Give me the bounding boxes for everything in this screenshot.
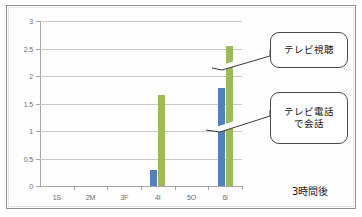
callout-tv-viewing-text: テレビ視聴 [284, 44, 334, 56]
screenshot-root: 00.511.522.53 1S2M3F4I5O6I テレビ視聴 テレビ電話 で… [0, 0, 362, 217]
footer-note-3-hours-later: 3時間後 [292, 183, 328, 198]
callout-videophone-text: テレビ電話 で会話 [284, 106, 334, 130]
callout-tv-viewing: テレビ視聴 [270, 32, 348, 68]
callout-videophone-line-2: で会話 [294, 118, 324, 129]
callout-videophone-line-1: テレビ電話 [284, 106, 334, 117]
callout-videophone: テレビ電話 で会話 [270, 92, 348, 144]
